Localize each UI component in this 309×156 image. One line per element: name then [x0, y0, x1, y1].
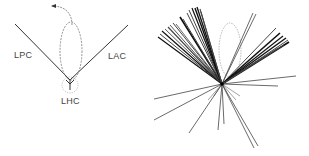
right-panel-ray-burst	[154, 7, 296, 148]
arrowhead-icon	[51, 4, 56, 8]
label-lhc: LHC	[61, 96, 80, 106]
figure: LPC LAC LHC	[0, 0, 309, 156]
label-lac: LAC	[108, 51, 127, 61]
left-panel-schematic: LPC LAC LHC	[14, 4, 128, 106]
ray-line	[154, 84, 222, 99]
ray-line	[218, 84, 222, 130]
ray-line	[222, 84, 254, 148]
ray-line	[222, 33, 280, 84]
diagram-canvas: LPC LAC LHC	[0, 0, 309, 156]
ray-line	[154, 84, 222, 120]
ray-line	[222, 84, 278, 86]
ray-line	[170, 25, 222, 84]
dotted-loop	[219, 23, 241, 77]
ray-line	[222, 84, 224, 124]
label-lpc: LPC	[14, 50, 33, 60]
dotted-loop	[60, 22, 82, 80]
ray-group	[154, 7, 296, 148]
ray-line	[222, 84, 258, 146]
burst-center-point	[220, 82, 224, 86]
